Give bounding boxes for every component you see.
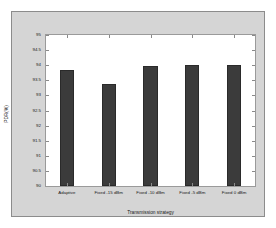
y-tick-label: 93 bbox=[1, 93, 41, 97]
x-tick-mark bbox=[109, 183, 110, 186]
bar bbox=[102, 84, 116, 186]
bar bbox=[185, 65, 199, 186]
x-tick-mark bbox=[192, 183, 193, 186]
bar bbox=[227, 65, 241, 186]
y-tick-mark bbox=[252, 111, 255, 112]
y-tick-mark bbox=[46, 111, 49, 112]
plot-area bbox=[45, 34, 256, 187]
x-tick-label: Fixed 0 dBm bbox=[222, 190, 247, 195]
y-tick-mark bbox=[46, 186, 49, 187]
y-tick-mark bbox=[46, 95, 49, 96]
y-tick-mark bbox=[46, 80, 49, 81]
bar bbox=[60, 70, 74, 186]
x-tick-label: Fixed -5 dBm bbox=[179, 190, 205, 195]
y-tick-label: 90 bbox=[1, 184, 41, 188]
y-tick-mark bbox=[46, 156, 49, 157]
y-axis-title: PDR(%) bbox=[4, 105, 9, 123]
y-tick-label: 93.5 bbox=[1, 78, 41, 82]
y-tick-mark bbox=[46, 35, 49, 36]
y-tick-mark bbox=[46, 50, 49, 51]
x-tick-mark bbox=[67, 183, 68, 186]
y-tick-mark bbox=[252, 141, 255, 142]
x-tick-label: Adaptive bbox=[58, 190, 75, 195]
y-tick-mark bbox=[252, 35, 255, 36]
x-tick-mark bbox=[67, 35, 68, 38]
x-tick-mark bbox=[151, 183, 152, 186]
x-tick-label: Fixed -10 dBm bbox=[136, 190, 165, 195]
x-axis-title: Transmission strategy bbox=[45, 210, 256, 215]
y-tick-mark bbox=[46, 65, 49, 66]
y-tick-label: 92 bbox=[1, 123, 41, 127]
y-tick-label: 94 bbox=[1, 63, 41, 67]
x-tick-mark bbox=[234, 35, 235, 38]
y-tick-label: 95 bbox=[1, 33, 41, 37]
y-tick-mark bbox=[252, 65, 255, 66]
x-tick-mark bbox=[109, 35, 110, 38]
y-tick-mark bbox=[46, 141, 49, 142]
y-tick-mark bbox=[46, 126, 49, 127]
y-tick-label: 91 bbox=[1, 154, 41, 158]
bar bbox=[143, 66, 157, 186]
y-tick-mark bbox=[46, 171, 49, 172]
figure-panel: 9090.59191.59292.59393.59494.595 Adaptiv… bbox=[11, 11, 265, 217]
x-tick-mark bbox=[151, 35, 152, 38]
x-tick-mark bbox=[192, 35, 193, 38]
y-tick-mark bbox=[252, 186, 255, 187]
y-tick-label: 91.5 bbox=[1, 138, 41, 142]
y-tick-mark bbox=[252, 156, 255, 157]
x-tick-mark bbox=[234, 183, 235, 186]
y-tick-mark bbox=[252, 95, 255, 96]
y-tick-label: 90.5 bbox=[1, 169, 41, 173]
y-tick-label: 94.5 bbox=[1, 48, 41, 52]
y-tick-mark bbox=[252, 171, 255, 172]
y-tick-mark bbox=[252, 80, 255, 81]
x-tick-label: Fixed -15 dBm bbox=[94, 190, 123, 195]
y-tick-mark bbox=[252, 126, 255, 127]
bar-series bbox=[46, 35, 255, 186]
y-tick-mark bbox=[252, 50, 255, 51]
